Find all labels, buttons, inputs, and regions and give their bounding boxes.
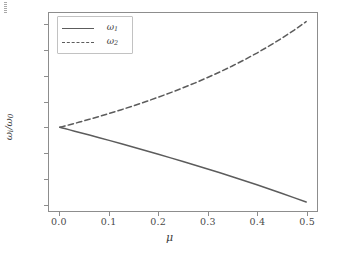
- figure-canvas: ωi/ω0 0.70.80.91.01.11.21.31.4 0.00.10.2…: [0, 0, 339, 253]
- x-tick-label: 0.2: [138, 216, 178, 227]
- legend-line-swatch-solid: [62, 23, 94, 33]
- legend-box: ω1ω2: [57, 16, 133, 54]
- x-tick-label: 0.3: [188, 216, 228, 227]
- x-tick-mark: [257, 212, 258, 216]
- y-axis-label-numerator-subscript: i: [6, 129, 15, 131]
- legend-line-swatch-dashed: [62, 37, 94, 47]
- x-axis-label: μ: [0, 231, 339, 244]
- y-axis-label-denominator: ω: [3, 118, 14, 126]
- x-tick-mark: [59, 212, 60, 216]
- x-tick-label: 0.5: [287, 216, 327, 227]
- legend-item-label: ω1: [94, 22, 127, 33]
- x-tick-mark: [109, 212, 110, 216]
- x-tick-mark: [208, 212, 209, 216]
- corner-artifact: [4, 2, 7, 13]
- legend-item-label: ω2: [94, 36, 127, 47]
- legend-item[interactable]: ω2: [62, 35, 127, 49]
- x-tick-mark: [307, 212, 308, 216]
- legend-item[interactable]: ω1: [62, 21, 127, 35]
- x-tick-label: 0.0: [39, 216, 79, 227]
- x-tick-label: 0.4: [237, 216, 277, 227]
- x-tick-label: 0.1: [89, 216, 129, 227]
- y-axis-label: ωi/ω0: [3, 87, 16, 167]
- series-line-omega1: [60, 127, 306, 202]
- y-axis-label-numerator: ω: [3, 132, 14, 140]
- y-axis-label-denominator-subscript: 0: [6, 113, 15, 118]
- x-tick-mark: [158, 212, 159, 216]
